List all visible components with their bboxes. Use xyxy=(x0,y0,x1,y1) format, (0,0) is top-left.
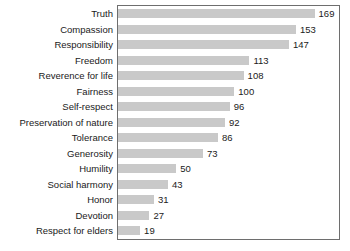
bar-row: Fairness100 xyxy=(118,84,339,100)
bar-row: Humility50 xyxy=(118,161,339,177)
bar-row: Respect for elders19 xyxy=(118,223,339,239)
bar-row: Social harmony43 xyxy=(118,177,339,193)
bar xyxy=(118,71,244,80)
bar-chart: Truth169Compassion153Responsibility147Fr… xyxy=(0,0,350,251)
bar-value-label: 86 xyxy=(222,130,233,146)
bar-value-label: 27 xyxy=(153,208,164,224)
bar-value-label: 169 xyxy=(319,6,335,22)
bar-value-label: 43 xyxy=(172,177,183,193)
category-label: Tolerance xyxy=(4,130,113,146)
bar xyxy=(118,149,203,158)
bar xyxy=(118,9,315,18)
bar-row: Freedom113 xyxy=(118,53,339,69)
bar-value-label: 50 xyxy=(180,161,191,177)
bar xyxy=(118,56,249,65)
bar-value-label: 92 xyxy=(229,115,240,131)
bar xyxy=(118,25,296,34)
bar-value-label: 153 xyxy=(300,22,316,38)
category-label: Honor xyxy=(4,192,113,208)
bar xyxy=(118,226,140,235)
bar-row: Responsibility147 xyxy=(118,37,339,53)
category-label: Respect for elders xyxy=(4,223,113,239)
bar xyxy=(118,133,218,142)
bar-value-label: 100 xyxy=(238,84,254,100)
category-label: Reverence for life xyxy=(4,68,113,84)
bar-row: Self-respect96 xyxy=(118,99,339,115)
category-label: Social harmony xyxy=(4,177,113,193)
bar xyxy=(118,102,230,111)
category-label: Humility xyxy=(4,161,113,177)
bar-row: Honor31 xyxy=(118,192,339,208)
category-label: Freedom xyxy=(4,53,113,69)
category-label: Devotion xyxy=(4,208,113,224)
bar-value-label: 147 xyxy=(293,37,309,53)
bar-value-label: 108 xyxy=(248,68,264,84)
category-label: Generosity xyxy=(4,146,113,162)
bar-value-label: 31 xyxy=(158,192,169,208)
bar-row: Devotion27 xyxy=(118,208,339,224)
bar-value-label: 73 xyxy=(207,146,218,162)
bar xyxy=(118,164,176,173)
bar-row: Tolerance86 xyxy=(118,130,339,146)
category-label: Fairness xyxy=(4,84,113,100)
category-label: Responsibility xyxy=(4,37,113,53)
bar xyxy=(118,40,289,49)
bar xyxy=(118,118,225,127)
bar-row: Truth169 xyxy=(118,6,339,22)
bar xyxy=(118,87,234,96)
bar-value-label: 113 xyxy=(253,53,268,69)
category-label: Truth xyxy=(4,6,113,22)
bar xyxy=(118,180,168,189)
bar xyxy=(118,195,154,204)
bar-value-label: 19 xyxy=(144,223,155,239)
bar-value-label: 96 xyxy=(234,99,245,115)
bar-rows: Truth169Compassion153Responsibility147Fr… xyxy=(118,6,339,239)
bar xyxy=(118,211,149,220)
category-label: Preservation of nature xyxy=(4,115,113,131)
bar-row: Preservation of nature92 xyxy=(118,115,339,131)
bar-row: Generosity73 xyxy=(118,146,339,162)
category-label: Self-respect xyxy=(4,99,113,115)
bar-row: Reverence for life108 xyxy=(118,68,339,84)
bar-row: Compassion153 xyxy=(118,22,339,38)
category-label: Compassion xyxy=(4,22,113,38)
